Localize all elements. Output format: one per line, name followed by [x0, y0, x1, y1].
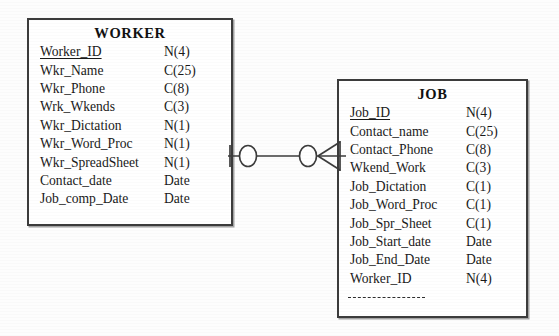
attribute-name: Job_End_Date	[350, 251, 466, 269]
attribute-row: Worker_ID N(4)	[339, 270, 526, 288]
attribute-type: C(25)	[466, 123, 498, 141]
attribute-name: Job_Dictation	[350, 178, 466, 196]
attribute-name: Wkr_SpreadSheet	[40, 154, 164, 172]
foreign-key-dashed-underline	[348, 297, 425, 298]
attribute-type: N(1)	[164, 117, 190, 135]
attribute-name: Wkr_Word_Proc	[40, 135, 164, 153]
attribute-type: Date	[466, 251, 492, 269]
attribute-name: Job_Start_date	[350, 233, 466, 251]
relationship-connector-worker-job[interactable]	[228, 136, 346, 176]
attribute-list-worker: Worker_ID N(4) Wkr_Name C(25) Wkr_Phone …	[29, 43, 231, 209]
attribute-type: C(8)	[164, 80, 189, 98]
attribute-type: C(3)	[164, 98, 189, 116]
attribute-name: Job_comp_Date	[40, 190, 164, 208]
attribute-type: C(1)	[466, 178, 491, 196]
attribute-row: Contact_name C(25)	[339, 123, 526, 141]
attribute-row: Job_Dictation C(1)	[339, 178, 526, 196]
attribute-row: Worker_ID N(4)	[29, 43, 231, 61]
attribute-row: Job_ID N(4)	[339, 104, 526, 122]
attribute-row: Job_Spr_Sheet C(1)	[339, 215, 526, 233]
attribute-type: Date	[164, 172, 190, 190]
attribute-row: Wkr_SpreadSheet N(1)	[29, 154, 231, 172]
attribute-row: Job_End_Date Date	[339, 251, 526, 269]
attribute-name: Wkr_Dictation	[40, 117, 164, 135]
entity-title-job: JOB	[339, 81, 526, 104]
attribute-row: Wkr_Dictation N(1)	[29, 117, 231, 135]
attribute-name: Wrk_Wkends	[40, 98, 164, 116]
attribute-row: Wkr_Phone C(8)	[29, 80, 231, 98]
attribute-type: C(8)	[466, 141, 491, 159]
attribute-list-job: Job_ID N(4) Contact_name C(25) Contact_P…	[339, 104, 526, 288]
attribute-type: C(1)	[466, 215, 491, 233]
attribute-name: Wkr_Phone	[40, 80, 164, 98]
attribute-type: N(4)	[466, 104, 492, 122]
er-diagram-canvas: WORKER Worker_ID N(4) Wkr_Name C(25) Wkr…	[0, 0, 559, 336]
attribute-row: Job_comp_Date Date	[29, 190, 231, 208]
attribute-name: Contact_date	[40, 172, 164, 190]
cardinality-zero-circle-job-side	[300, 146, 317, 167]
attribute-name: Job_Spr_Sheet	[350, 215, 466, 233]
attribute-name: Job_ID	[350, 104, 466, 122]
attribute-type: N(4)	[466, 270, 492, 288]
attribute-row: Wkr_Name C(25)	[29, 62, 231, 80]
attribute-type: N(1)	[164, 154, 190, 172]
attribute-type: N(4)	[164, 43, 190, 61]
attribute-type: C(25)	[164, 62, 196, 80]
attribute-name: Job_Word_Proc	[350, 196, 466, 214]
attribute-row: Contact_Phone C(8)	[339, 141, 526, 159]
attribute-type: C(3)	[466, 159, 491, 177]
attribute-row: Contact_date Date	[29, 172, 231, 190]
attribute-type: C(1)	[466, 196, 491, 214]
cardinality-zero-circle-worker-side	[240, 146, 257, 167]
attribute-name: Contact_Phone	[350, 141, 466, 159]
attribute-name: Worker_ID	[40, 43, 164, 61]
attribute-name: Wkend_Work	[350, 159, 466, 177]
attribute-type: Date	[466, 233, 492, 251]
attribute-name: Wkr_Name	[40, 62, 164, 80]
attribute-type: N(1)	[164, 135, 190, 153]
attribute-row: Job_Word_Proc C(1)	[339, 196, 526, 214]
entity-box-worker[interactable]: WORKER Worker_ID N(4) Wkr_Name C(25) Wkr…	[27, 18, 233, 226]
attribute-row: Wrk_Wkends C(3)	[29, 98, 231, 116]
entity-title-worker: WORKER	[29, 20, 231, 43]
attribute-row: Wkr_Word_Proc N(1)	[29, 135, 231, 153]
entity-box-job[interactable]: JOB Job_ID N(4) Contact_name C(25) Conta…	[337, 79, 528, 318]
attribute-type: Date	[164, 190, 190, 208]
attribute-row: Wkend_Work C(3)	[339, 159, 526, 177]
attribute-row: Job_Start_date Date	[339, 233, 526, 251]
attribute-name: Worker_ID	[350, 270, 466, 288]
attribute-name: Contact_name	[350, 123, 466, 141]
